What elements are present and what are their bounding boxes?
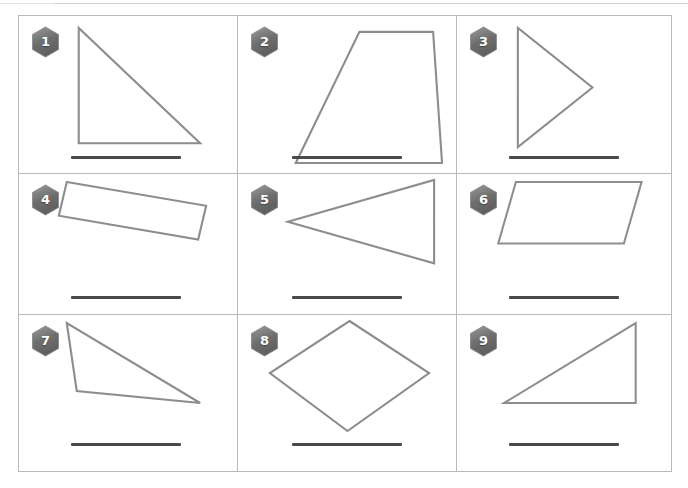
answer-blank-line[interactable]	[71, 156, 181, 159]
shape-figure-parallelogram	[457, 174, 672, 314]
shape-figure-triangle-pointing-right	[457, 16, 672, 173]
answer-blank-line[interactable]	[509, 296, 619, 299]
answer-blank-line[interactable]	[292, 443, 402, 446]
worksheet-page: 123456789	[0, 0, 688, 488]
shape-figure-right-triangle	[457, 315, 672, 472]
shape-figure-right-triangle	[19, 16, 237, 173]
answer-blank-line[interactable]	[509, 156, 619, 159]
answer-blank-line[interactable]	[71, 443, 181, 446]
shape-cell: 1	[19, 16, 238, 174]
shape-cell: 2	[238, 16, 457, 174]
shape-cell: 5	[238, 174, 457, 315]
answer-blank-line[interactable]	[71, 296, 181, 299]
shape-figure-tilted-rectangle	[19, 174, 237, 314]
shape-cell: 7	[19, 315, 238, 472]
shape-cell: 3	[457, 16, 672, 174]
answer-blank-line[interactable]	[292, 296, 402, 299]
answer-blank-line[interactable]	[509, 443, 619, 446]
shape-cell: 6	[457, 174, 672, 315]
shape-figure-obtuse-triangle	[19, 315, 237, 472]
shape-cell: 4	[19, 174, 238, 315]
page-top-rule-left-segment	[0, 3, 54, 4]
shape-figure-trapezoid	[238, 16, 456, 173]
shape-cell: 9	[457, 315, 672, 472]
page-top-rule	[54, 3, 688, 4]
shape-figure-triangle-pointing-left	[238, 174, 456, 314]
shape-cell: 8	[238, 315, 457, 472]
shape-figure-rhombus	[238, 315, 456, 472]
shapes-grid-table: 123456789	[18, 15, 672, 472]
answer-blank-line[interactable]	[292, 156, 402, 159]
